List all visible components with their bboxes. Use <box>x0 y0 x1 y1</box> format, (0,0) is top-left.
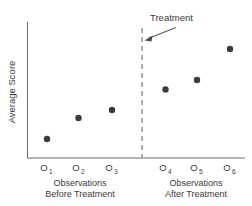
treatment-arrow-head <box>145 36 153 42</box>
svg-text:After Treatment: After Treatment <box>165 189 228 199</box>
data-point-o3 <box>109 107 115 113</box>
svg-text:2: 2 <box>81 168 85 175</box>
data-point-o1 <box>44 136 50 142</box>
scatter-plot: Average Score Treatment O 1 O 2 O 3 O <box>0 0 252 206</box>
svg-text:Observations: Observations <box>53 178 107 188</box>
svg-text:3: 3 <box>114 168 118 175</box>
group-caption-before: Observations Before Treatment <box>45 178 115 199</box>
svg-text:6: 6 <box>232 168 236 175</box>
x-tick-label-o2: O 2 <box>72 162 85 175</box>
svg-text:4: 4 <box>168 168 172 175</box>
svg-text:O: O <box>72 162 79 173</box>
svg-text:Observations: Observations <box>169 178 223 188</box>
y-axis-title: Average Score <box>6 61 17 124</box>
svg-text:Before Treatment: Before Treatment <box>45 189 115 199</box>
svg-text:5: 5 <box>199 168 203 175</box>
treatment-label: Treatment <box>150 12 193 23</box>
svg-text:O: O <box>190 162 197 173</box>
svg-text:O: O <box>223 162 230 173</box>
x-tick-label-o3: O 3 <box>105 162 118 175</box>
svg-text:O: O <box>159 162 166 173</box>
svg-text:O: O <box>105 162 112 173</box>
data-point-o4 <box>162 86 168 92</box>
x-tick-label-o5: O 5 <box>190 162 203 175</box>
x-tick-label-o1: O 1 <box>40 162 53 175</box>
x-tick-label-o6: O 6 <box>223 162 236 175</box>
data-point-o6 <box>227 46 233 52</box>
svg-text:O: O <box>40 162 47 173</box>
data-point-o5 <box>194 77 200 83</box>
data-point-o2 <box>75 115 81 121</box>
chart-figure: Average Score Treatment O 1 O 2 O 3 O <box>0 0 252 206</box>
svg-text:1: 1 <box>49 168 53 175</box>
x-tick-label-o4: O 4 <box>159 162 172 175</box>
group-caption-after: Observations After Treatment <box>165 178 228 199</box>
